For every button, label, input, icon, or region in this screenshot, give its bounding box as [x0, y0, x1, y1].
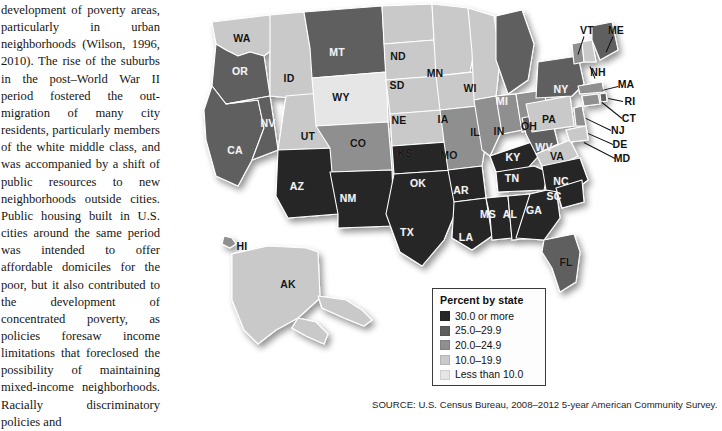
state-shape-mt[interactable]: [304, 6, 386, 78]
figure-source-note: SOURCE: U.S. Census Bureau, 2008–2012 5-…: [372, 399, 722, 410]
state-label-or: OR: [232, 65, 248, 77]
state-label-sd: SD: [390, 79, 405, 91]
state-label-ky: KY: [506, 151, 521, 163]
legend-label: 20.0–24.9: [455, 340, 501, 351]
legend-swatch: [440, 355, 450, 365]
legend-row: Less than 10.0: [440, 367, 539, 382]
legend-swatch: [440, 326, 450, 336]
state-label-ms: MS: [480, 208, 496, 220]
us-map-canvas: [186, 0, 647, 392]
state-label-ca: CA: [227, 144, 243, 156]
article-paragraph: development of poverty areas, particular…: [1, 2, 160, 431]
state-label-hi: HI: [237, 240, 248, 252]
legend-row: 20.0–24.9: [440, 338, 539, 353]
state-label-nv: NV: [261, 117, 276, 129]
state-shape-wy[interactable]: [312, 72, 388, 126]
legend-label: 10.0–19.9: [455, 355, 501, 366]
state-label-wi: WI: [463, 82, 476, 94]
state-label-de: DE: [613, 138, 628, 150]
state-label-ne: NE: [392, 114, 407, 126]
state-label-co: CO: [350, 137, 366, 149]
state-shape-nd[interactable]: [382, 4, 434, 44]
state-label-ma: MA: [618, 78, 635, 90]
legend-label: 30.0 or more: [455, 311, 514, 322]
state-label-nj: NJ: [611, 124, 625, 136]
state-label-tn: TN: [505, 172, 519, 184]
legend-items: 30.0 or more25.0–29.920.0–24.910.0–19.9L…: [440, 309, 539, 382]
state-label-nd: ND: [390, 50, 406, 62]
state-label-va: VA: [550, 150, 564, 162]
state-label-mi: MI: [496, 95, 508, 107]
state-shape-ct[interactable]: [582, 94, 600, 106]
legend-label: Less than 10.0: [455, 369, 523, 380]
state-shape-mn[interactable]: [432, 4, 474, 76]
state-label-md: MD: [614, 152, 631, 164]
state-label-ut: UT: [301, 130, 315, 142]
map-legend: Percent by state 30.0 or more25.0–29.920…: [432, 288, 546, 386]
state-shape-ak-aleutians: [318, 296, 372, 326]
choropleth-map-figure: WAORCAIDNVUTAZMTWYCONMNDSDNEKSOKTXMNIAMO…: [186, 0, 647, 412]
state-label-ok: OK: [410, 177, 426, 189]
state-label-ga: GA: [526, 204, 542, 216]
state-label-wy: WY: [332, 91, 349, 103]
state-label-sc: SC: [547, 190, 562, 202]
legend-swatch: [440, 340, 450, 350]
state-label-la: LA: [459, 231, 473, 243]
state-label-vt: VT: [580, 24, 594, 36]
state-label-pa: PA: [542, 113, 556, 125]
legend-swatch: [440, 370, 450, 380]
state-label-fl: FL: [559, 256, 572, 268]
legend-row: 30.0 or more: [440, 309, 539, 324]
state-label-me: ME: [608, 24, 624, 36]
state-label-wa: WA: [233, 32, 250, 44]
state-shape-ak-panhandle: [292, 318, 328, 344]
state-label-ct: CT: [622, 112, 636, 124]
state-label-oh: OH: [521, 120, 537, 132]
state-label-az: AZ: [290, 180, 304, 192]
state-label-ri: RI: [625, 95, 636, 107]
legend-row: 25.0–29.9: [440, 324, 539, 339]
state-label-nc: NC: [553, 175, 569, 187]
state-label-ak: AK: [280, 278, 296, 290]
state-label-id: ID: [284, 72, 295, 84]
state-shape-md[interactable]: [566, 126, 588, 142]
state-label-il: IL: [470, 126, 480, 138]
article-text-column: development of poverty areas, particular…: [0, 0, 160, 412]
state-label-nm: NM: [340, 192, 357, 204]
legend-title: Percent by state: [440, 294, 539, 306]
state-label-ny: NY: [554, 83, 569, 95]
legend-label: 25.0–29.9: [455, 325, 501, 336]
state-label-in: IN: [494, 125, 505, 137]
state-label-ar: AR: [453, 184, 469, 196]
state-label-mo: MO: [440, 149, 457, 161]
state-label-mn: MN: [427, 67, 444, 79]
state-shape-mi[interactable]: [496, 10, 534, 94]
legend-row: 10.0–19.9: [440, 353, 539, 368]
state-label-al: AL: [503, 208, 517, 220]
state-shape-nj[interactable]: [574, 106, 586, 126]
state-label-tx: TX: [400, 226, 414, 238]
state-label-ks: KS: [398, 147, 413, 159]
state-label-ia: IA: [438, 113, 449, 125]
legend-swatch: [440, 311, 450, 321]
state-shape-hi[interactable]: [222, 236, 236, 248]
state-label-mt: MT: [329, 46, 345, 58]
state-shape-az[interactable]: [276, 148, 338, 218]
state-shape-ri[interactable]: [600, 93, 607, 102]
